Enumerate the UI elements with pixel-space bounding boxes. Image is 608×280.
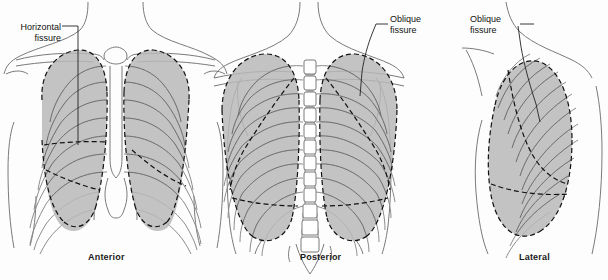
lung-surface-projection-figure: Horizontal fissure Oblique fissure Obliq… bbox=[0, 0, 608, 280]
callout-oblique-fissure-posterior: Oblique fissure bbox=[390, 14, 442, 36]
callout-oblique-fissure-lateral: Oblique fissure bbox=[470, 14, 522, 36]
panel-caption-lateral: Lateral bbox=[519, 252, 550, 262]
callout-oblique-fissure-posterior-line1: Oblique bbox=[390, 14, 442, 25]
callout-oblique-fissure-lateral-line1: Oblique bbox=[470, 14, 522, 25]
callout-horizontal-fissure-line1: Horizontal bbox=[6, 22, 61, 33]
panel-caption-posterior: Posterior bbox=[300, 252, 341, 262]
panel-caption-anterior: Anterior bbox=[88, 252, 125, 262]
anatomy-illustration bbox=[0, 0, 608, 280]
callout-oblique-fissure-lateral-line2: fissure bbox=[470, 25, 522, 36]
callout-oblique-fissure-posterior-line2: fissure bbox=[390, 25, 442, 36]
callout-horizontal-fissure: Horizontal fissure bbox=[6, 22, 61, 44]
callout-horizontal-fissure-line2: fissure bbox=[6, 33, 61, 44]
